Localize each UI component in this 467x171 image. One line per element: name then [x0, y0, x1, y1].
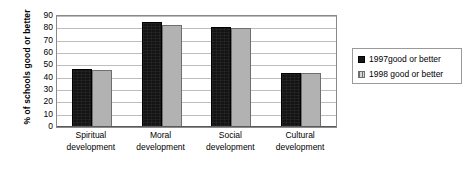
bar	[162, 25, 182, 127]
plot-area	[56, 15, 337, 128]
x-category-label-line1: Social	[196, 130, 266, 142]
y-tick-label: 40	[34, 72, 53, 81]
legend-swatch-1998-icon	[358, 71, 365, 78]
bar-chart-figure: % of schools good or better 908070605040…	[0, 0, 467, 171]
bar	[72, 69, 92, 127]
bar-group	[57, 16, 127, 127]
bar	[211, 27, 231, 127]
chart-legend: 1997good or better 1998 good or better	[352, 48, 462, 84]
x-category-label-line1: Moral	[126, 130, 196, 142]
bar	[281, 73, 301, 127]
bar-group	[127, 16, 197, 127]
legend-label-1998: 1998 good or better	[369, 70, 443, 79]
y-tick-label: 0	[34, 122, 53, 131]
y-tick-label: 30	[34, 85, 53, 94]
x-category-label-line2: development	[126, 142, 196, 154]
y-axis-tick-labels: 9080706050403020100	[34, 10, 53, 134]
x-category-label-line2: development	[56, 142, 126, 154]
y-axis-title: % of schools good or better	[22, 1, 32, 133]
y-tick-label: 10	[34, 109, 53, 118]
bar	[231, 28, 251, 127]
legend-swatch-1997-icon	[358, 56, 365, 63]
bar	[301, 73, 321, 127]
x-axis-category-labels: SpiritualdevelopmentMoraldevelopmentSoci…	[56, 130, 335, 164]
x-axis-baseline	[57, 126, 336, 127]
bar	[142, 22, 162, 127]
y-tick-label: 70	[34, 35, 53, 44]
legend-item-1998: 1998 good or better	[358, 68, 461, 81]
x-category-label: Culturaldevelopment	[265, 130, 335, 153]
y-tick-label: 50	[34, 60, 53, 69]
x-category-label-line2: development	[196, 142, 266, 154]
legend-label-1997: 1997good or better	[369, 55, 441, 64]
y-tick-label: 60	[34, 48, 53, 57]
x-category-label: Moraldevelopment	[126, 130, 196, 153]
y-tick-label: 80	[34, 23, 53, 32]
x-category-label: Spiritualdevelopment	[56, 130, 126, 153]
legend-item-1997: 1997good or better	[358, 53, 461, 66]
bar-group	[266, 16, 336, 127]
x-category-label-line1: Spiritual	[56, 130, 126, 142]
x-category-label: Socialdevelopment	[196, 130, 266, 153]
y-tick-label: 90	[34, 11, 53, 20]
y-tick-label: 20	[34, 97, 53, 106]
bar-group	[197, 16, 267, 127]
x-category-label-line1: Cultural	[265, 130, 335, 142]
bar	[92, 70, 112, 127]
bars-layer	[57, 16, 336, 127]
x-category-label-line2: development	[265, 142, 335, 154]
